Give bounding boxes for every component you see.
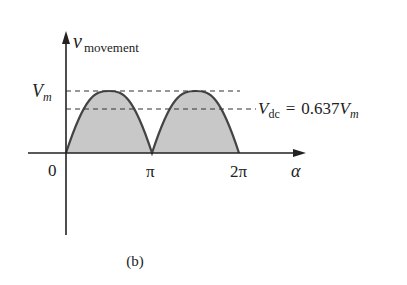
y-axis-label: vmovement [73, 30, 139, 55]
figure-caption: (b) [0, 253, 270, 270]
x-axis-arrow-icon [293, 149, 306, 157]
x-tick-2pi: 2π [230, 162, 248, 181]
vm-tick-label: Vm [32, 81, 52, 104]
waveform-fill [66, 91, 239, 153]
rectified-waveform-diagram: vmovement Vm Vdc=0.637Vm 0 π 2π α [0, 0, 407, 285]
x-tick-0: 0 [48, 161, 57, 180]
x-tick-pi: π [146, 162, 155, 181]
x-axis-label: α [291, 161, 301, 181]
y-axis-arrow-icon [62, 31, 70, 44]
vdc-annotation: Vdc=0.637Vm [258, 99, 359, 121]
